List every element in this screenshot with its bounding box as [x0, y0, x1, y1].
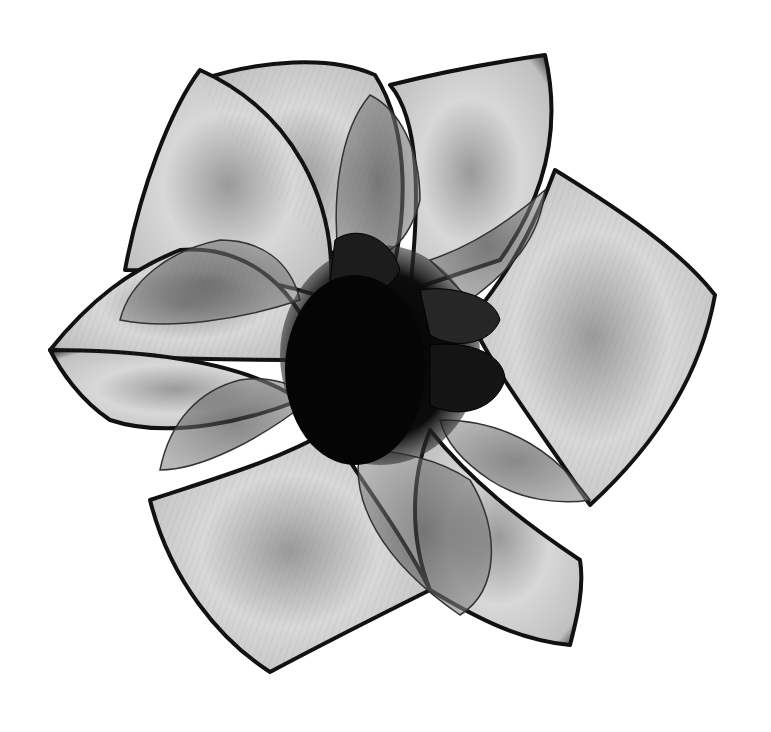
flower-illustration: [0, 0, 771, 732]
flower-photo: Grayscale translucent flower, top view, …: [0, 0, 771, 732]
